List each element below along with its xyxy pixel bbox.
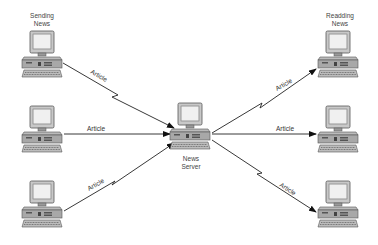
sender-top-computer-icon [20,30,64,78]
reader-top-computer-icon [316,30,360,78]
edge-label-reader-middle: Article [276,125,294,132]
edge-server-to-reader-bottom [212,140,316,212]
edge-server-to-reader-top [212,69,316,133]
sender-bottom-computer-icon [20,180,64,228]
edge-sender-bottom-to-server [64,143,174,211]
reader-bottom-computer-icon [316,180,360,228]
sender-middle-computer-icon [20,105,64,153]
edge-label-sender-middle: Article [87,125,105,132]
news-server-computer-icon [168,102,212,150]
edge-label-sender-bottom: Article [86,177,105,192]
edge-sender-top-to-server [63,63,174,128]
edge-label-sender-top: Article [90,68,109,83]
reader-middle-computer-icon [316,105,360,153]
edge-label-reader-top: Article [274,77,293,92]
